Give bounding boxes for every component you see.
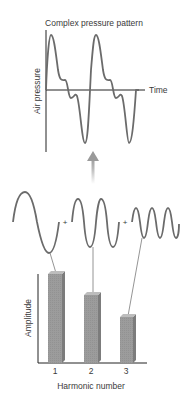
arrow-shaft: [92, 158, 95, 184]
connector-harmonic-3: [128, 238, 142, 316]
amplitude-axis-label: Amplitude: [23, 299, 33, 337]
arrow-up-icon: [87, 151, 99, 161]
tick-label-1: 1: [53, 366, 58, 376]
amplitude-bar-chart: Amplitude 1 2 3 Harmonic number: [23, 271, 147, 391]
harmonic-2-wave: [72, 199, 119, 247]
bar-harmonic-3: [120, 314, 136, 363]
complex-pattern-title: Complex pressure pattern: [45, 18, 143, 28]
complex-waveform: [46, 35, 139, 143]
complex-pressure-panel: Complex pressure pattern Time Air pressu…: [32, 18, 168, 152]
bar-harmonic-2: [84, 292, 101, 363]
connector-harmonic-1: [50, 253, 56, 273]
bar-harmonic-1: [48, 271, 65, 363]
harmonic-number-axis-label: Harmonic number: [57, 381, 125, 391]
harmonics-diagram: Complex pressure pattern Time Air pressu…: [0, 0, 186, 399]
time-axis-label: Time: [149, 85, 168, 95]
plus-sign-1: +: [63, 218, 68, 227]
air-pressure-axis-label: Air pressure: [32, 68, 42, 114]
plus-sign-2: +: [123, 218, 128, 227]
harmonic-1-wave: [13, 192, 59, 253]
tick-label-2: 2: [89, 366, 94, 376]
sum-arrow: [87, 151, 99, 184]
component-waves: + +: [13, 192, 179, 253]
harmonic-3-wave: [132, 208, 179, 238]
tick-label-3: 3: [124, 366, 129, 376]
